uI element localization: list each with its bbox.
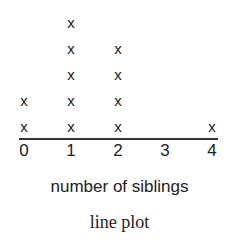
tick-label-2: 2 — [110, 142, 126, 160]
x-mark: x — [111, 41, 125, 56]
x-axis-line — [19, 138, 218, 140]
x-mark: x — [64, 41, 78, 56]
x-mark: x — [17, 119, 31, 134]
x-mark: x — [64, 93, 78, 108]
chart-caption: line plot — [0, 212, 239, 233]
line-plot: xxxxxxxxxxxx 0 1 2 3 4 number of sibling… — [0, 0, 239, 250]
tick-label-4: 4 — [204, 142, 220, 160]
x-mark: x — [64, 15, 78, 30]
x-mark: x — [111, 67, 125, 82]
tick-label-1: 1 — [63, 142, 79, 160]
x-mark: x — [111, 93, 125, 108]
x-mark: x — [17, 93, 31, 108]
x-mark: x — [64, 67, 78, 82]
tick-label-0: 0 — [16, 142, 32, 160]
x-axis-label: number of siblings — [0, 177, 239, 197]
x-mark: x — [205, 119, 219, 134]
x-mark: x — [64, 119, 78, 134]
tick-label-3: 3 — [157, 142, 173, 160]
x-mark: x — [111, 119, 125, 134]
